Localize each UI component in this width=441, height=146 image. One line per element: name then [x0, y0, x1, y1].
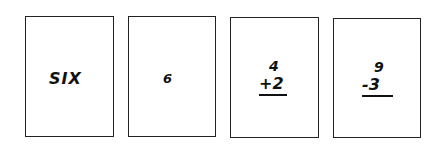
card-top-number: 9	[374, 59, 384, 75]
sum-line	[259, 94, 287, 96]
card-text: 6	[163, 71, 172, 86]
card-subtraction: 9 -3	[333, 18, 421, 138]
card-top-number: 4	[269, 58, 279, 74]
difference-line	[362, 95, 393, 97]
card-numeral-six: 6	[128, 16, 216, 137]
card-word-six: SIX	[25, 16, 114, 137]
card-addition: 4 +2	[230, 17, 319, 138]
card-text: SIX	[49, 69, 82, 88]
card-bottom-operand: +2	[259, 74, 284, 93]
card-bottom-operand: -3	[362, 75, 380, 94]
